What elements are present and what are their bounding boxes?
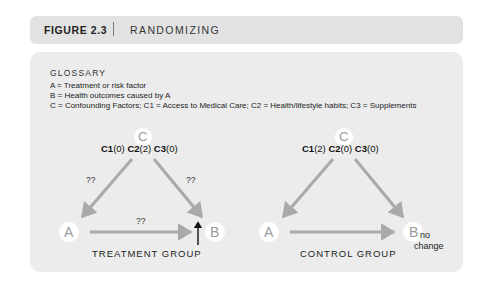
treatment-group-label: TREATMENT GROUP — [92, 248, 202, 259]
treatment-confounders: C1(0) C2(2) C3(0) — [101, 143, 178, 154]
edge-c-to-a — [82, 159, 132, 217]
control-group-label: CONTROL GROUP — [300, 248, 397, 259]
outcome-note-line-2: change — [414, 241, 444, 252]
confounder-name: C2 — [127, 143, 139, 154]
outcome-note: no change — [420, 230, 444, 252]
confounder-value: (0) — [341, 143, 353, 154]
confounder-value: (2) — [140, 143, 152, 154]
edge-c-to-b — [355, 159, 403, 217]
control-node-c: C — [339, 129, 348, 144]
edge-label-a-b: ?? — [136, 216, 145, 226]
confounder-value: (0) — [113, 143, 125, 154]
edge-c-to-a — [283, 159, 333, 217]
treatment-node-b: B — [210, 224, 219, 240]
edge-label-c-b: ?? — [186, 175, 195, 185]
confounder-name: C2 — [328, 143, 340, 154]
control-node-b: B — [409, 224, 418, 240]
confounder-name: C3 — [154, 143, 166, 154]
confounder-value: (2) — [314, 143, 326, 154]
confounder-name: C1 — [302, 143, 314, 154]
treatment-node-c: C — [138, 129, 147, 144]
confounder-name: C3 — [355, 143, 367, 154]
control-confounders: C1(2) C2(0) C3(0) — [302, 143, 379, 154]
confounder-value: (0) — [367, 143, 379, 154]
confounder-value: (0) — [166, 143, 178, 154]
edge-c-to-b — [154, 159, 202, 217]
control-node-a: A — [264, 224, 273, 240]
outcome-note-line-1: no — [420, 230, 444, 241]
confounder-name: C1 — [101, 143, 113, 154]
edge-label-c-a: ?? — [86, 175, 95, 185]
treatment-node-a: A — [64, 224, 73, 240]
